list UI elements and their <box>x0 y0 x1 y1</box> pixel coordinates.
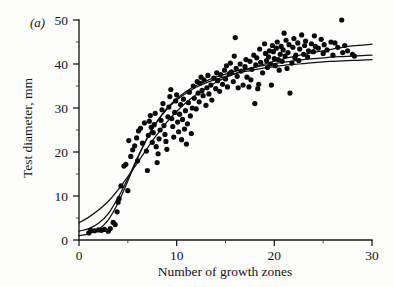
data-point <box>253 62 258 67</box>
axes <box>79 20 372 240</box>
data-point <box>242 64 247 69</box>
data-point <box>254 55 259 60</box>
data-point <box>225 84 230 89</box>
fitted-curves <box>79 44 372 235</box>
figure-panel: (a) 01020304050 0102030 Number of growth… <box>0 0 394 287</box>
data-point <box>293 53 298 58</box>
data-point <box>151 130 156 135</box>
data-point <box>330 53 335 58</box>
y-tick-label: 10 <box>55 189 69 204</box>
data-point <box>290 45 295 50</box>
data-point <box>268 61 273 66</box>
data-point <box>283 38 288 43</box>
data-point <box>291 36 296 41</box>
data-point <box>321 51 326 56</box>
data-point <box>192 96 197 101</box>
data-point <box>316 46 321 51</box>
data-point <box>260 70 265 75</box>
data-point <box>154 144 159 149</box>
data-point <box>188 113 193 118</box>
data-point <box>306 48 311 53</box>
data-point <box>305 54 310 59</box>
data-point <box>319 37 324 42</box>
data-point <box>262 41 267 46</box>
data-point <box>173 98 178 103</box>
data-point <box>249 67 254 72</box>
data-point <box>186 100 191 105</box>
data-point <box>153 111 158 116</box>
data-point <box>156 136 161 141</box>
data-point <box>303 39 308 44</box>
data-point <box>142 120 147 125</box>
data-point <box>152 122 157 127</box>
panel-label: (a) <box>30 15 45 30</box>
data-point <box>235 74 240 79</box>
data-point <box>135 158 140 163</box>
data-point <box>256 82 261 87</box>
data-point <box>156 151 161 156</box>
data-point <box>234 66 239 71</box>
data-point <box>233 35 238 40</box>
data-point <box>134 135 139 140</box>
data-point <box>116 196 121 201</box>
x-axis-ticks <box>79 240 372 246</box>
y-axis-tick-labels: 01020304050 <box>55 13 69 248</box>
data-point <box>161 123 166 128</box>
data-point <box>199 88 204 93</box>
data-point <box>180 117 185 122</box>
data-point <box>182 127 187 132</box>
data-point <box>324 47 329 52</box>
data-point <box>155 160 160 165</box>
data-point <box>170 124 175 129</box>
data-point <box>172 110 177 115</box>
data-point <box>231 79 236 84</box>
data-point <box>205 73 210 78</box>
data-point <box>281 47 286 52</box>
data-point <box>269 83 274 88</box>
x-axis-tick-labels: 0102030 <box>76 248 379 263</box>
data-point <box>181 97 186 102</box>
y-tick-label: 30 <box>55 101 69 116</box>
data-point <box>275 39 280 44</box>
data-point <box>274 46 279 51</box>
data-point <box>206 91 211 96</box>
data-point <box>148 113 153 118</box>
data-point <box>201 77 206 82</box>
data-point <box>284 66 289 71</box>
y-tick-label: 50 <box>55 13 69 28</box>
data-point <box>179 137 184 142</box>
data-point <box>252 101 257 106</box>
data-point <box>296 58 301 63</box>
data-point <box>302 43 307 48</box>
data-point <box>191 83 196 88</box>
data-point <box>246 84 251 89</box>
data-point <box>145 168 150 173</box>
data-point <box>277 68 282 73</box>
data-point <box>217 89 222 94</box>
data-point <box>144 149 149 154</box>
data-point <box>175 119 180 124</box>
data-point <box>174 92 179 97</box>
data-point <box>157 127 162 132</box>
data-points <box>86 17 357 235</box>
data-point <box>332 40 337 45</box>
scatter-plot: (a) 01020304050 0102030 Number of growth… <box>0 0 394 287</box>
data-point <box>128 154 133 159</box>
y-tick-label: 20 <box>55 145 69 160</box>
data-point <box>278 52 283 57</box>
data-point <box>340 50 345 55</box>
data-point <box>178 102 183 107</box>
data-point <box>232 53 237 58</box>
data-point <box>295 40 300 45</box>
data-point <box>132 143 137 148</box>
data-point <box>203 103 208 108</box>
data-point <box>126 138 131 143</box>
data-point <box>247 59 252 64</box>
data-point <box>184 141 189 146</box>
data-point <box>163 139 168 144</box>
data-point <box>220 82 225 87</box>
data-point <box>158 118 163 123</box>
data-point <box>339 17 344 22</box>
data-point <box>168 87 173 92</box>
data-point <box>239 68 244 73</box>
